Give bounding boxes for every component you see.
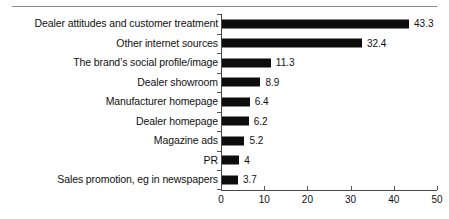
bar-container: 32.4 <box>222 39 362 48</box>
category-tick <box>217 151 221 152</box>
top-divider-rule <box>12 6 437 7</box>
bar <box>222 97 250 106</box>
category-tick <box>217 53 221 54</box>
category-tick <box>217 112 221 113</box>
bar-container: 6.4 <box>222 97 250 106</box>
bar-row: Dealer homepage 6.2 <box>0 112 449 132</box>
bar <box>222 117 249 126</box>
category-label: Magazine ads <box>2 135 218 146</box>
value-label: 8.9 <box>265 77 279 87</box>
bar <box>222 58 271 67</box>
value-tick <box>437 186 438 190</box>
plot-area: Dealer attitudes and customer treatment … <box>0 14 449 190</box>
category-label: PR <box>2 155 218 166</box>
category-tick <box>217 131 221 132</box>
category-label: The brand’s social profile/image <box>2 57 218 68</box>
value-label: 3.7 <box>243 175 257 185</box>
value-tick-label: 0 <box>218 195 224 205</box>
value-tick-label: 40 <box>388 195 399 205</box>
category-label: Other internet sources <box>2 38 218 49</box>
bar-row: PR 4 <box>0 151 449 171</box>
category-tick <box>217 34 221 35</box>
value-tick <box>307 186 308 190</box>
category-label: Sales promotion, eg in newspapers <box>2 174 218 185</box>
bar-row: Dealer attitudes and customer treatment … <box>0 14 449 34</box>
bar-container: 11.3 <box>222 58 271 67</box>
bar <box>222 19 409 28</box>
category-label: Dealer attitudes and customer treatment <box>2 18 218 29</box>
bar <box>222 156 239 165</box>
value-tick-label: 30 <box>345 195 356 205</box>
bar-container: 6.2 <box>222 117 249 126</box>
bar-container: 8.9 <box>222 78 260 87</box>
value-label: 4 <box>244 155 250 165</box>
bar <box>222 39 362 48</box>
category-tick <box>217 73 221 74</box>
value-label: 43.3 <box>414 19 433 29</box>
value-tick-label: 10 <box>259 195 270 205</box>
bar-container: 43.3 <box>222 19 409 28</box>
value-tick-label: 20 <box>302 195 313 205</box>
value-tick <box>351 186 352 190</box>
bar-container: 5.2 <box>222 136 244 145</box>
bar-row: Other internet sources 32.4 <box>0 34 449 54</box>
bar <box>222 136 244 145</box>
value-label: 6.2 <box>254 116 268 126</box>
value-tick <box>264 186 265 190</box>
bar-container: 3.7 <box>222 175 238 184</box>
category-axis <box>221 14 222 190</box>
bar-row: Sales promotion, eg in newspapers 3.7 <box>0 170 449 190</box>
value-tick-label: 50 <box>431 195 442 205</box>
bar <box>222 175 238 184</box>
bar-row: The brand’s social profile/image 11.3 <box>0 53 449 73</box>
value-axis: 01020304050 <box>221 190 437 191</box>
bar <box>222 78 260 87</box>
value-tick <box>221 186 222 190</box>
category-tick <box>217 92 221 93</box>
bar-row: Dealer showroom 8.9 <box>0 73 449 93</box>
bar-chart: Dealer attitudes and customer treatment … <box>0 0 449 219</box>
bar-row: Manufacturer homepage 6.4 <box>0 92 449 112</box>
bar-container: 4 <box>222 156 239 165</box>
category-tick <box>217 170 221 171</box>
category-tick <box>217 14 221 15</box>
value-tick <box>394 186 395 190</box>
category-label: Dealer showroom <box>2 77 218 88</box>
bar-row: Magazine ads 5.2 <box>0 131 449 151</box>
category-label: Dealer homepage <box>2 116 218 127</box>
value-label: 32.4 <box>367 38 386 48</box>
value-label: 6.4 <box>255 97 269 107</box>
category-label: Manufacturer homepage <box>2 96 218 107</box>
value-label: 5.2 <box>249 136 263 146</box>
value-label: 11.3 <box>276 58 295 68</box>
